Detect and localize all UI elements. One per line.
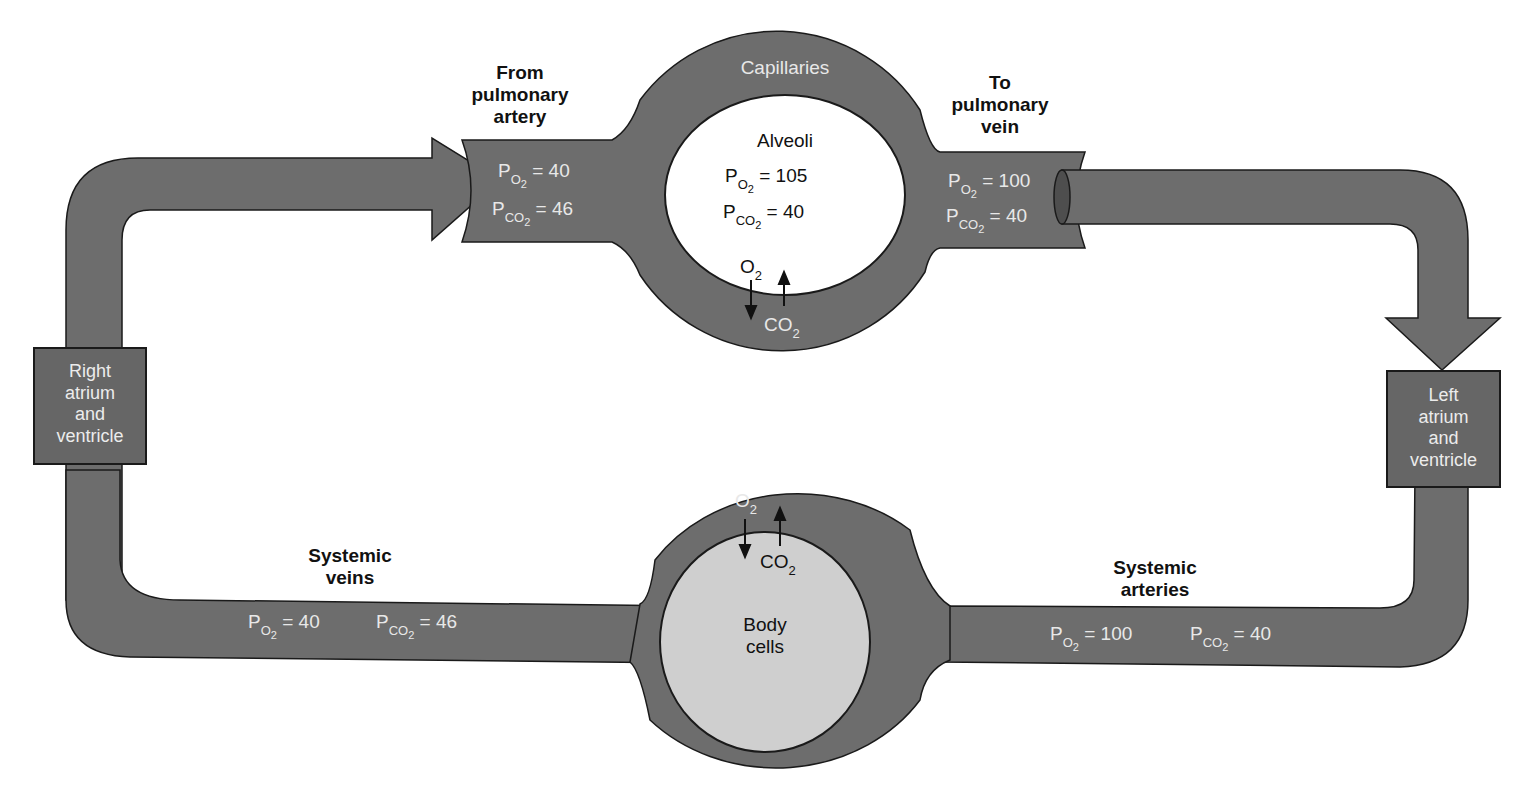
veins-po2: PO2 = 40: [248, 611, 320, 641]
alveoli-label: Alveoli: [720, 130, 850, 152]
outlet-pco2: PCO2 = 40: [946, 205, 1027, 235]
systemic-veins-label: Systemic veins: [290, 545, 410, 589]
capillaries-label: Capillaries: [710, 57, 860, 79]
alveoli-circle: [665, 95, 905, 295]
pulmonary-vein-vessel: [1062, 170, 1500, 370]
systemic-o2-label: O2: [735, 490, 757, 517]
from-pulmonary-artery-label: From pulmonary artery: [455, 62, 585, 128]
left-atrium-ventricle-label: Left atrium and ventricle: [1387, 385, 1500, 471]
arteries-po2: PO2 = 100: [1050, 623, 1132, 653]
to-pulmonary-vein-label: To pulmonary vein: [935, 72, 1065, 138]
systemic-co2-label: CO2: [760, 551, 796, 578]
alveoli-pco2: PCO2 = 40: [723, 201, 804, 231]
pulmonary-o2-label: O2: [740, 256, 762, 283]
arteries-pco2: PCO2 = 40: [1190, 623, 1271, 653]
pulmonary-vein-opening: [1054, 170, 1070, 224]
circulation-diagram: [0, 0, 1526, 810]
outlet-po2: PO2 = 100: [948, 170, 1030, 200]
pulmonary-co2-label: CO2: [764, 314, 800, 341]
right-atrium-ventricle-label: Right atrium and ventricle: [34, 361, 146, 447]
systemic-arteries-label: Systemic arteries: [1095, 557, 1215, 601]
alveoli-po2: PO2 = 105: [725, 165, 807, 195]
veins-pco2: PCO2 = 46: [376, 611, 457, 641]
body-cells-label: Body cells: [705, 614, 825, 658]
inlet-po2: PO2 = 40: [498, 160, 570, 190]
inlet-pco2: PCO2 = 46: [492, 198, 573, 228]
